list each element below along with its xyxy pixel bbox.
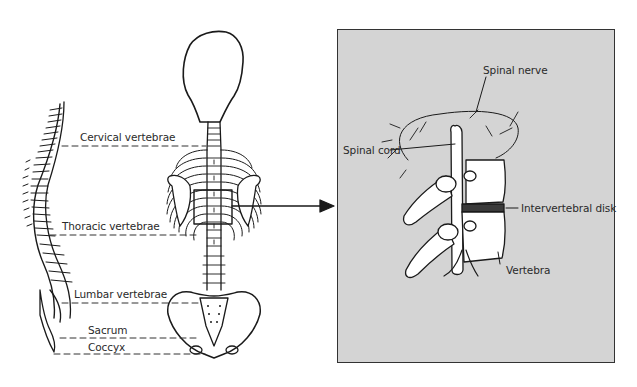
label-spinal-nerve: Spinal nerve	[483, 64, 548, 76]
label-sacrum: Sacrum	[88, 324, 127, 336]
label-cervical-vertebrae: Cervical vertebrae	[80, 131, 175, 143]
label-coccyx: Coccyx	[88, 341, 125, 353]
label-spinal-cord: Spinal cord	[343, 144, 401, 156]
posterior-skeleton-illustration	[167, 31, 261, 358]
label-intervertebral-disk: Intervertebral disk	[521, 202, 616, 214]
intervertebral-disk-shape	[462, 204, 504, 212]
arrow-right-icon	[320, 200, 334, 212]
label-lumbar-vertebrae: Lumbar vertebrae	[74, 288, 167, 300]
label-vertebra: Vertebra	[506, 264, 550, 276]
spine-anatomy-figure: Cervical vertebrae Thoracic vertebrae Lu…	[0, 0, 637, 387]
label-thoracic-vertebrae: Thoracic vertebrae	[62, 220, 160, 232]
